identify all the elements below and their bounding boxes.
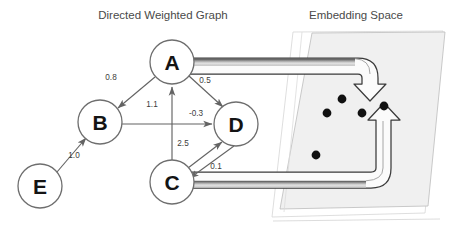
graph-node-d[interactable]: D [214,102,258,146]
node-label-a: A [164,51,179,74]
edge-weight-b-d: -0.3 [189,109,204,118]
graph-node-c[interactable]: C [150,160,194,204]
edge-weight-a-b: 0.8 [105,73,117,82]
diagram-canvas: Directed Weighted Graph Embedding Space [0,0,449,235]
edge-weight-c-d: 2.5 [177,139,189,148]
right-title: Embedding Space [309,9,403,21]
ribbon-arrow-a-shading [190,59,355,66]
edge-weight-e-b: 1.0 [68,151,80,160]
graph-node-a[interactable]: A [150,40,194,84]
embedding-plane-baseline [273,219,440,221]
embedding-point [338,95,347,104]
ribbon-arrow-c-shading [190,181,366,188]
node-label-d: D [228,113,243,136]
node-label-c: C [164,171,179,194]
edge-weight-c-a: 1.1 [146,100,158,109]
graph-node-e[interactable]: E [18,164,62,208]
diagram-svg: Directed Weighted Graph Embedding Space [0,0,449,235]
embedding-point [323,109,332,118]
graph-node-b[interactable]: B [78,100,122,144]
node-label-b: B [92,111,107,134]
edge-weight-d-c: 0.1 [210,162,222,171]
embedding-point [380,102,389,111]
left-title: Directed Weighted Graph [98,9,228,21]
embedding-point [358,109,367,118]
embedding-point [312,151,321,160]
node-label-e: E [33,175,47,198]
edge-weight-a-d: 0.5 [199,76,211,85]
